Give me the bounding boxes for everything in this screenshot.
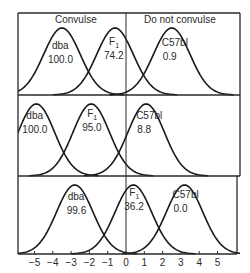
strain-label-f1: F1 — [129, 187, 139, 200]
percent-convulse-dba: 99.6 — [67, 205, 87, 216]
strain-label-f1: F1 — [109, 36, 119, 49]
strain-label-dba: dba — [26, 110, 43, 121]
x-tick-label: 4 — [196, 257, 202, 268]
x-tick-label: 2 — [160, 257, 166, 268]
x-tick-label: −4 — [47, 257, 59, 268]
percent-convulse-f1: 95.0 — [82, 122, 102, 133]
strain-label-c57bl: C57bl — [136, 110, 162, 121]
curve-dba — [0, 104, 99, 176]
x-tick-label: −2 — [84, 257, 96, 268]
strain-label-dba: dba — [52, 40, 69, 51]
x-tick-label: −3 — [65, 257, 77, 268]
percent-convulse-f1: 74.2 — [104, 50, 124, 61]
percent-convulse-dba: 100.0 — [22, 124, 47, 135]
x-tick-label: 0 — [123, 257, 129, 268]
percent-convulse-dba: 100.0 — [48, 54, 73, 65]
percent-convulse-c57bl: 0.9 — [163, 51, 177, 62]
chart-panels: dba100.0F174.2C57bl0.9dba100.0F195.0C57b… — [0, 28, 247, 254]
panel-3: dba99.6F136.2C57bl0.0 — [13, 185, 247, 254]
x-tick-label: 1 — [142, 257, 148, 268]
strain-label-dba: dba — [68, 191, 85, 202]
region-label-do-not-convulse: Do not convulse — [144, 14, 216, 25]
x-tick-label: −5 — [29, 257, 41, 268]
percent-convulse-c57bl: 0.0 — [174, 203, 188, 214]
percent-convulse-c57bl: 8.8 — [137, 124, 151, 135]
strain-label-c57bl: C57bl — [173, 189, 199, 200]
strain-label-c57bl: C57bl — [162, 37, 188, 48]
x-tick-label: −1 — [102, 257, 114, 268]
strain-label-f1: F1 — [87, 108, 97, 121]
threshold-distribution-chart: dba100.0F174.2C57bl0.9dba100.0F195.0C57b… — [0, 0, 250, 273]
panel-2: dba100.0F195.0C57bl8.8 — [0, 104, 208, 176]
panel-1: dba100.0F174.2C57bl0.9 — [0, 28, 234, 95]
region-label-convulse: Convulse — [55, 14, 97, 25]
x-tick-label: 3 — [178, 257, 184, 268]
x-tick-label: 5 — [215, 257, 221, 268]
percent-convulse-f1: 36.2 — [124, 201, 144, 212]
